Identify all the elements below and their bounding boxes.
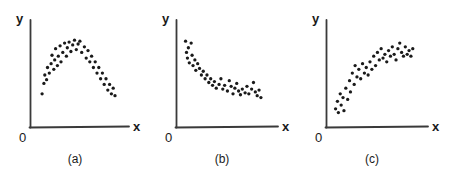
data-point	[205, 73, 208, 76]
data-point	[215, 87, 218, 90]
data-point	[190, 54, 193, 57]
data-point	[103, 83, 106, 86]
data-point	[95, 71, 98, 74]
data-point	[228, 79, 231, 82]
data-point	[344, 87, 347, 90]
data-point	[190, 41, 193, 44]
panel-a-x-axis-label: x	[133, 120, 140, 133]
data-point	[196, 62, 199, 65]
data-point	[85, 56, 88, 59]
data-point	[391, 45, 394, 48]
data-point	[393, 53, 396, 56]
data-point	[219, 77, 222, 80]
data-point	[376, 51, 379, 54]
data-point	[56, 64, 59, 67]
data-point	[78, 40, 81, 43]
data-point	[235, 82, 238, 85]
data-point	[213, 80, 216, 83]
scatterplot-figure: y x 0 (a) y x 0 (b) y x 0 (c)	[0, 0, 452, 177]
data-point	[257, 88, 260, 91]
data-point	[239, 93, 242, 96]
data-point	[49, 62, 52, 65]
panel-a-origin-label: 0	[19, 131, 26, 144]
data-point	[348, 79, 351, 82]
data-point	[381, 56, 384, 59]
data-point	[112, 87, 115, 90]
data-point	[404, 45, 407, 48]
panel-a-caption: (a)	[0, 152, 150, 166]
data-point	[365, 66, 368, 69]
data-point	[40, 92, 43, 95]
data-point	[73, 39, 76, 42]
data-point	[336, 100, 339, 103]
data-point	[353, 64, 356, 67]
data-point	[243, 91, 246, 94]
data-point	[411, 47, 414, 50]
data-point	[398, 41, 401, 44]
data-point	[256, 94, 259, 97]
data-point	[57, 55, 60, 58]
panel-b: y x 0 (b)	[147, 0, 297, 177]
data-point	[43, 73, 46, 76]
data-point	[394, 58, 397, 61]
data-point	[385, 60, 388, 63]
data-point	[223, 84, 226, 87]
data-point	[226, 89, 229, 92]
data-point	[247, 92, 250, 95]
data-point	[366, 73, 369, 76]
data-point	[359, 77, 362, 80]
data-point	[389, 55, 392, 58]
data-point	[106, 88, 109, 91]
data-point	[233, 87, 236, 90]
data-point	[355, 75, 358, 78]
data-point	[186, 56, 189, 59]
data-point	[339, 92, 342, 95]
data-point	[259, 96, 262, 99]
data-point	[241, 87, 244, 90]
data-point	[86, 49, 89, 52]
data-point	[61, 51, 64, 54]
data-point	[361, 62, 364, 65]
data-point	[198, 67, 201, 70]
data-point	[92, 66, 95, 69]
data-point	[340, 103, 343, 106]
data-point	[400, 51, 403, 54]
data-point	[406, 53, 409, 56]
data-point	[188, 61, 191, 64]
panel-c-y-axis-label: y	[312, 12, 319, 25]
data-point	[349, 90, 352, 93]
data-point	[353, 83, 356, 86]
panel-a-points	[40, 39, 116, 98]
data-point	[351, 71, 354, 74]
data-point	[207, 81, 210, 84]
data-point	[193, 58, 196, 61]
data-point	[209, 77, 212, 80]
data-point	[237, 89, 240, 92]
panel-b-y-axis-label: y	[162, 12, 169, 25]
data-point	[407, 49, 410, 52]
data-point	[254, 90, 257, 93]
panel-a-y-axis-label: y	[16, 12, 23, 25]
data-point	[101, 71, 104, 74]
data-point	[65, 55, 68, 58]
data-point	[63, 41, 66, 44]
data-point	[185, 51, 188, 54]
data-point	[194, 69, 197, 72]
data-point	[396, 47, 399, 50]
panel-c-points	[334, 41, 414, 114]
data-point	[230, 85, 233, 88]
data-point	[342, 109, 345, 112]
data-point	[67, 40, 70, 43]
data-point	[59, 60, 62, 63]
data-point	[202, 70, 205, 73]
data-point	[334, 107, 337, 110]
panel-c: y x 0 (c)	[297, 0, 447, 177]
data-point	[221, 87, 224, 90]
data-point	[387, 49, 390, 52]
data-point	[45, 78, 48, 81]
data-point	[66, 46, 69, 49]
panel-b-plot	[147, 0, 297, 145]
data-point	[48, 71, 51, 74]
data-point	[380, 47, 383, 50]
data-point	[402, 55, 405, 58]
